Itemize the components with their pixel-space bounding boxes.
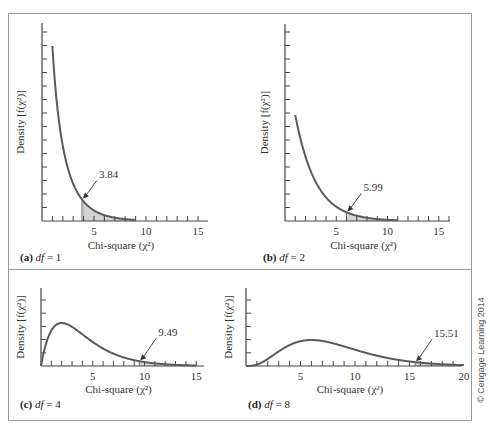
critical-arrow xyxy=(143,338,156,357)
x-tick-label: 15 xyxy=(193,225,205,237)
shaded-rejection-region xyxy=(82,199,136,221)
x-tick-label: 20 xyxy=(459,370,471,382)
x-tick-label: 10 xyxy=(382,225,394,237)
panel-c: 510159.49Chi-square (χ²)Density [f(χ²)](… xyxy=(14,288,204,411)
critical-arrow xyxy=(419,339,432,358)
x-tick-label: 15 xyxy=(404,370,416,382)
x-tick-label: 5 xyxy=(298,370,304,382)
y-axis-label: Density [f(χ²)] xyxy=(222,295,235,358)
x-axis-label: Chi-square (χ²) xyxy=(85,383,152,396)
x-tick-label: 15 xyxy=(433,225,445,237)
panel-label: (c) df = 4 xyxy=(20,398,61,411)
copyright-notice: © Cengage Learning 2014 xyxy=(476,297,486,403)
critical-value-label: 15.51 xyxy=(434,327,459,339)
x-axis-label: Chi-square (χ²) xyxy=(330,239,397,252)
x-tick-label: 5 xyxy=(90,370,96,382)
panel-label: (a) df = 1 xyxy=(20,251,61,264)
y-axis-label: Density [f(χ²)] xyxy=(258,91,271,154)
critical-arrow xyxy=(86,180,97,195)
arrowhead-icon xyxy=(416,355,422,361)
x-tick-label: 10 xyxy=(141,225,153,237)
chi-square-figure: 510153.84Chi-square (χ²)Density [f(χ²)](… xyxy=(0,0,490,430)
panel-label: (b) df = 2 xyxy=(263,251,305,264)
panel-b: 510155.99Chi-square (χ²)Density [f(χ²)](… xyxy=(258,24,450,264)
x-axis-label: Chi-square (χ²) xyxy=(317,383,384,396)
critical-value-label: 3.84 xyxy=(99,168,119,180)
arrowhead-icon xyxy=(347,205,353,211)
density-curve xyxy=(52,46,135,220)
x-tick-label: 10 xyxy=(139,370,151,382)
x-tick-label: 10 xyxy=(350,370,362,382)
arrowhead-icon xyxy=(83,192,89,198)
x-axis-label: Chi-square (χ²) xyxy=(88,239,155,252)
critical-arrow xyxy=(350,193,361,208)
y-axis-label: Density [f(χ²)] xyxy=(14,295,27,358)
density-curve xyxy=(295,115,397,220)
critical-value-label: 5.99 xyxy=(363,181,383,193)
y-axis-label: Density [f(χ²)] xyxy=(14,90,27,153)
panel-a: 510153.84Chi-square (χ²)Density [f(χ²)](… xyxy=(14,23,208,264)
x-tick-label: 5 xyxy=(334,225,340,237)
critical-value-label: 9.49 xyxy=(158,326,178,338)
arrowhead-icon xyxy=(140,354,146,360)
panel-d: 510152015.51Chi-square (χ²)Density [f(χ²… xyxy=(222,288,470,411)
panel-label: (d) df = 8 xyxy=(248,398,290,411)
x-tick-label: 15 xyxy=(191,370,203,382)
x-tick-label: 5 xyxy=(91,225,97,237)
